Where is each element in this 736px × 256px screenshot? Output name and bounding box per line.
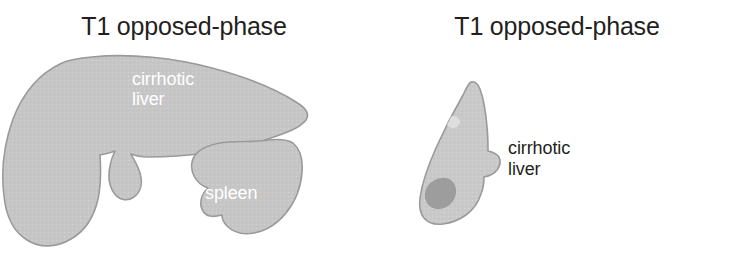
right-panel-organ-illustration [368, 0, 736, 256]
figure-container: T1 opposed-phase cirrhoticliver spleen T… [0, 0, 736, 256]
left-panel-organ-illustration [0, 0, 368, 256]
panel-left: T1 opposed-phase cirrhoticliver spleen [0, 0, 368, 256]
spleen-shape [192, 139, 303, 233]
panel-right: T1 opposed-phase cirrhoticliver [368, 0, 736, 256]
